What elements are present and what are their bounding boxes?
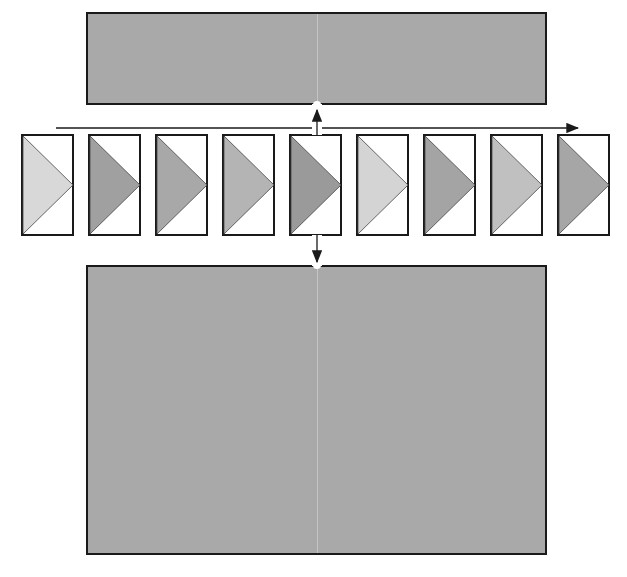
frame-8 (491, 135, 542, 235)
frame-6 (357, 135, 408, 235)
frame-5 (290, 135, 341, 235)
frame-3 (156, 135, 207, 235)
frame-4 (223, 135, 274, 235)
frame-1 (22, 135, 73, 235)
frame-2 (89, 135, 140, 235)
frame-9 (558, 135, 609, 235)
frame-strip (22, 135, 609, 235)
connector-notch (313, 101, 321, 109)
frame-strip-diagram (0, 0, 627, 577)
connector-notch (313, 261, 321, 269)
frame-7 (424, 135, 475, 235)
